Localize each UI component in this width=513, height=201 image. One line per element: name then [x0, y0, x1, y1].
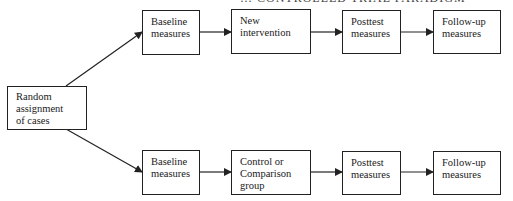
intervention-posttest-box: Posttest measures [342, 10, 401, 54]
intervention-baseline-box: Baseline measures [142, 10, 200, 55]
intervention-followup-box: Follow-up measures [433, 10, 501, 54]
control-posttest-box: Posttest measures [342, 151, 401, 195]
new-intervention-box: New intervention [231, 9, 311, 54]
control-comparison-box: Control or Comparison group [231, 150, 311, 195]
control-baseline-box: Baseline measures [142, 150, 200, 195]
random-assignment-box: Random assignment of cases [7, 86, 87, 130]
control-followup-box: Follow-up measures [433, 151, 501, 195]
